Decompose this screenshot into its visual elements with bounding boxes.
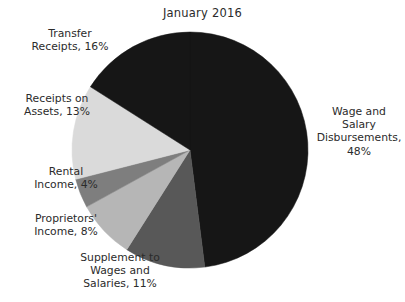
- pie-chart-figure: January 2016 Wage and Salary Disbursemen…: [0, 0, 405, 302]
- pie-label-receipts-on-assets: Receipts on Assets, 13%: [2, 92, 112, 118]
- pie-label-proprietors-income: Proprietors' Income, 8%: [10, 212, 122, 238]
- pie-label-transfer-receipts: Transfer Receipts, 16%: [14, 27, 126, 53]
- pie-label-supplement-to-wages-and-salaries: Supplement to Wages and Salaries, 11%: [52, 251, 188, 291]
- pie-slice-wage-and-salary-disbursements[interactable]: [190, 32, 308, 267]
- pie-label-wage-and-salary-disbursements: Wage and Salary Disbursements, 48%: [314, 105, 404, 158]
- pie-label-rental-income: Rental Income, 4%: [14, 165, 118, 191]
